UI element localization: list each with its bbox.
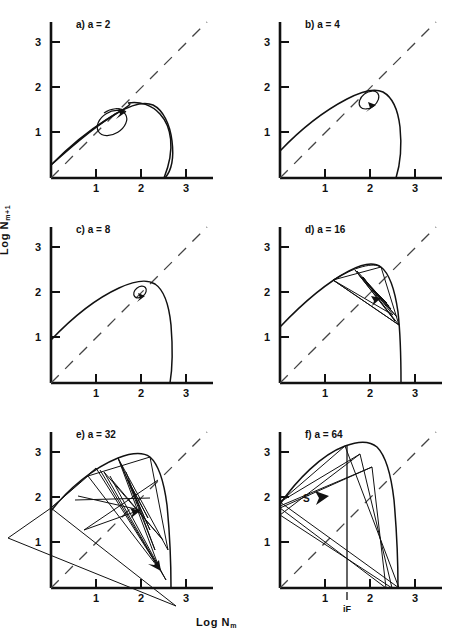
svg-text:3: 3 bbox=[412, 182, 418, 194]
svg-text:3: 3 bbox=[183, 182, 189, 194]
svg-text:2: 2 bbox=[264, 286, 270, 298]
svg-text:1: 1 bbox=[264, 126, 270, 138]
svg-text:2: 2 bbox=[264, 491, 270, 503]
svg-text:1: 1 bbox=[264, 536, 270, 548]
svg-text:1: 1 bbox=[322, 182, 328, 194]
svg-text:3: 3 bbox=[412, 387, 418, 399]
axes bbox=[280, 227, 442, 383]
identity-line bbox=[51, 227, 207, 383]
cobweb-trajectory bbox=[333, 265, 399, 325]
svg-text:3: 3 bbox=[35, 36, 41, 48]
trajectory-arrowhead bbox=[366, 102, 376, 112]
panel-e-plot: 1 2 3 1 2 3 e) a = 32 bbox=[0, 410, 229, 625]
cobweb-trajectory bbox=[93, 105, 132, 141]
axes bbox=[280, 22, 442, 178]
y-axis-label-subscript: m+1 bbox=[4, 205, 11, 221]
s-marker-arrowhead bbox=[315, 491, 329, 505]
y-axis-label: Log Nm+1 bbox=[0, 125, 11, 255]
svg-text:2: 2 bbox=[264, 81, 270, 93]
panel-b: 1 2 3 1 2 3 b) a = 4 bbox=[229, 0, 458, 205]
svg-text:1: 1 bbox=[322, 387, 328, 399]
x-axis-label: Log Nm bbox=[196, 616, 237, 629]
panel-c: 1 2 3 1 2 3 c) a = 8 bbox=[0, 205, 229, 410]
s-marker-label: S bbox=[303, 493, 310, 504]
svg-text:1: 1 bbox=[35, 126, 41, 138]
if-marker-label: iF bbox=[343, 604, 352, 614]
panel-a-label: a) a = 2 bbox=[76, 19, 111, 30]
panel-e: 1 2 3 1 2 3 e) a = 32 bbox=[0, 410, 229, 615]
svg-text:1: 1 bbox=[35, 536, 41, 548]
x-axis-label-subscript: m bbox=[230, 622, 237, 629]
svg-text:2: 2 bbox=[138, 387, 144, 399]
panel-d-plot: 1 2 3 1 2 3 d) a = 16 bbox=[229, 205, 458, 410]
svg-text:3: 3 bbox=[183, 387, 189, 399]
map-curve bbox=[51, 281, 172, 383]
svg-text:2: 2 bbox=[138, 592, 144, 604]
panel-e-label: e) a = 32 bbox=[76, 429, 116, 440]
svg-text:2: 2 bbox=[367, 592, 373, 604]
panel-b-label: b) a = 4 bbox=[305, 19, 340, 30]
svg-text:1: 1 bbox=[93, 592, 99, 604]
panel-c-plot: 1 2 3 1 2 3 c) a = 8 bbox=[0, 205, 229, 410]
panel-a: 1 2 3 1 2 3 a) a = 2 bbox=[0, 0, 229, 205]
svg-text:1: 1 bbox=[35, 331, 41, 343]
svg-text:2: 2 bbox=[35, 491, 41, 503]
axes bbox=[51, 227, 213, 383]
panel-f: 1 2 3 1 2 3 iF S f) a = 64 bbox=[229, 410, 458, 625]
svg-text:3: 3 bbox=[35, 446, 41, 458]
identity-line bbox=[280, 22, 436, 178]
identity-line bbox=[51, 22, 207, 178]
svg-text:3: 3 bbox=[264, 241, 270, 253]
cobweb-trajectory bbox=[8, 457, 176, 606]
svg-text:1: 1 bbox=[93, 387, 99, 399]
panel-b-plot: 1 2 3 1 2 3 b) a = 4 bbox=[229, 0, 458, 205]
svg-text:1: 1 bbox=[322, 592, 328, 604]
cobweb-trajectory bbox=[280, 446, 399, 588]
x-axis-label-text: Log N bbox=[196, 616, 230, 628]
map-curve-main bbox=[51, 103, 173, 178]
svg-text:1: 1 bbox=[264, 331, 270, 343]
svg-text:2: 2 bbox=[35, 286, 41, 298]
panel-f-label: f) a = 64 bbox=[305, 429, 343, 440]
svg-text:2: 2 bbox=[367, 182, 373, 194]
svg-text:3: 3 bbox=[264, 36, 270, 48]
svg-text:2: 2 bbox=[367, 387, 373, 399]
svg-text:3: 3 bbox=[183, 592, 189, 604]
panel-c-label: c) a = 8 bbox=[76, 224, 111, 235]
svg-text:3: 3 bbox=[35, 241, 41, 253]
panel-a-plot: 1 2 3 1 2 3 a) a = 2 bbox=[0, 0, 229, 205]
svg-text:3: 3 bbox=[412, 592, 418, 604]
svg-text:2: 2 bbox=[35, 81, 41, 93]
axes bbox=[280, 432, 442, 588]
svg-text:1: 1 bbox=[93, 182, 99, 194]
figure-panel-grid: 1 2 3 1 2 3 a) a = 2 bbox=[0, 0, 458, 643]
map-curve bbox=[51, 102, 171, 178]
panel-f-plot: 1 2 3 1 2 3 iF S f) a = 64 bbox=[229, 410, 458, 625]
y-axis-label-text: Log N bbox=[0, 221, 10, 255]
svg-text:3: 3 bbox=[264, 446, 270, 458]
panel-d: 1 2 3 1 2 3 d) a = 16 bbox=[229, 205, 458, 410]
axes bbox=[51, 22, 213, 178]
svg-text:2: 2 bbox=[138, 182, 144, 194]
map-curve bbox=[280, 90, 401, 178]
panel-d-label: d) a = 16 bbox=[305, 224, 346, 235]
